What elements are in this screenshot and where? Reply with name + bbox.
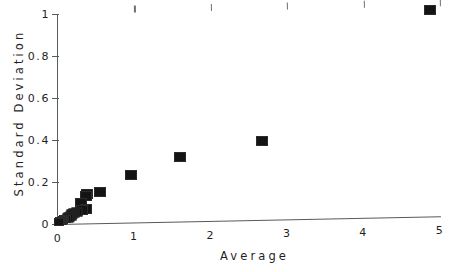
data-point-marker [424,5,436,15]
data-point-marker [256,136,268,146]
data-point-marker [125,170,137,180]
data-point-marker [174,152,186,162]
x-tick-label: 2 [206,229,215,242]
y-tick-label: 0.8 [28,50,50,63]
x-axis-ticks [58,6,441,15]
x-tick-label: 4 [359,226,368,239]
x-tick-mark [440,0,441,6]
x-tick-label: 3 [283,227,292,240]
y-tick-label: 1 [41,8,50,21]
x-tick-mark [211,4,212,11]
x-tick-mark [287,2,288,9]
plot-area [58,14,440,224]
x-tick-label: 5 [436,224,445,237]
x-tick-mark [134,5,135,12]
y-axis-tick-labels: 00.20.40.60.81 [0,0,50,272]
y-tick-label: 0 [41,218,50,231]
data-point-marker [94,187,106,197]
scatter-plot-figure: Standard Deviation 00.20.40.60.81 012345… [0,0,461,272]
x-tick-label: 1 [130,230,139,243]
y-tick-label: 0.6 [28,92,50,105]
y-tick-label: 0.4 [28,134,50,147]
data-point-marker [54,218,64,226]
x-tick-mark [363,1,364,8]
x-tick-label: 0 [54,232,63,245]
x-axis-title: Average [0,249,461,263]
y-tick-label: 0.2 [28,176,50,189]
